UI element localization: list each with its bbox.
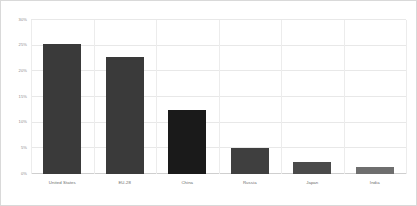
- bar-slot: United States: [31, 20, 94, 174]
- bar-slot: Russia: [219, 20, 282, 174]
- y-axis-tick-label: 10%: [19, 120, 28, 124]
- bar-chart-figure: 0%5%10%15%20%25%30% United StatesEU-28Ch…: [0, 0, 417, 206]
- bar-slot: India: [344, 20, 407, 174]
- bar-united-states: [43, 44, 81, 174]
- x-axis-category-label: Russia: [243, 181, 257, 185]
- y-axis-tick-label: 15%: [19, 94, 28, 98]
- bar-slot: Japan: [281, 20, 344, 174]
- x-axis-category-label: United States: [49, 181, 76, 185]
- x-axis-category-label: Japan: [306, 181, 318, 185]
- y-axis-tick-label: 25%: [19, 43, 28, 47]
- bar-series: United StatesEU-28ChinaRussiaJapanIndia: [31, 20, 406, 174]
- bar-russia: [231, 148, 269, 174]
- bar-china: [168, 110, 206, 174]
- bar-india: [356, 167, 394, 174]
- plot-area: 0%5%10%15%20%25%30% United StatesEU-28Ch…: [31, 20, 406, 174]
- y-axis-tick-label: 30%: [19, 17, 28, 21]
- x-axis-category-label: China: [181, 181, 193, 185]
- x-axis-category-label: EU-28: [118, 181, 131, 185]
- bar-japan: [293, 162, 331, 174]
- y-axis-tick-label: 20%: [19, 69, 28, 73]
- y-axis-tick-label: 0%: [21, 171, 27, 175]
- gridline-x-6: [406, 20, 407, 174]
- x-axis-category-label: India: [370, 181, 380, 185]
- y-axis-tick-label: 5%: [21, 146, 27, 150]
- bar-slot: China: [156, 20, 219, 174]
- bar-eu-28: [106, 57, 144, 174]
- bar-slot: EU-28: [94, 20, 157, 174]
